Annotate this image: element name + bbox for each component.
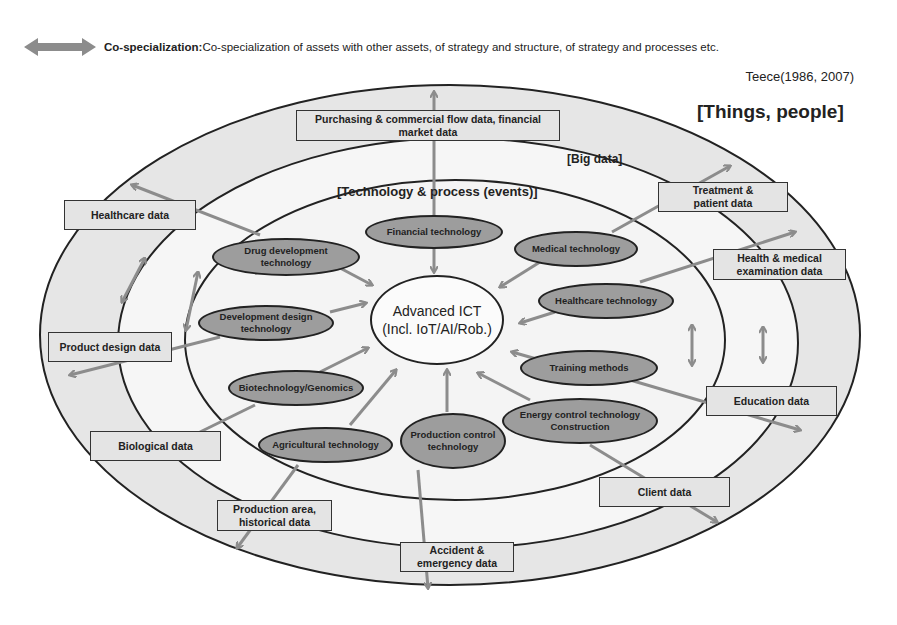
box-biological-data: Biological data [90,431,221,461]
double-arrow-icon [24,38,96,56]
citation: Teece(1986, 2007) [746,69,854,84]
box-client-data: Client data [599,477,730,507]
box-treatment-data: Treatment & patient data [658,182,788,212]
box-purchasing-data: Purchasing & commercial flow data, finan… [296,110,560,141]
oval-healthcare-technology: Healthcare technology [538,283,674,319]
oval-agricultural-technology: Agricultural technology [258,427,393,463]
inner-ring-label: [Technology & process (events)] [337,184,538,199]
oval-drug-development: Drug development technology [212,238,360,276]
center-line2: (Incl. IoT/AI/Rob.) [382,320,492,338]
oval-production-control: Production control technology [400,413,506,469]
legend: Co-specialization: Co-specialization of … [24,38,719,56]
box-education-data: Education data [706,386,837,416]
box-healthcare-data: Healthcare data [64,200,196,230]
oval-medical-technology: Medical technology [514,231,638,267]
box-production-area-data: Production area, historical data [217,500,332,531]
box-health-exam-data: Health & medical examination data [713,249,846,280]
center-line1: Advanced ICT [393,302,482,320]
oval-development-design: Development design technology [198,305,334,341]
oval-energy-control: Energy control technology Construction [502,398,658,444]
middle-ring-label: [Big data] [567,152,622,166]
outer-ring-label: [Things, people] [697,101,844,123]
legend-description: Co-specialization of assets with other a… [202,41,718,53]
legend-term: Co-specialization: [104,41,202,53]
oval-financial-technology: Financial technology [365,215,503,249]
advanced-ict-hub: Advanced ICT (Incl. IoT/AI/Rob.) [370,275,504,365]
oval-biotechnology-genomics: Biotechnology/Genomics [228,370,364,406]
box-product-design-data: Product design data [48,332,172,362]
oval-training-methods: Training methods [520,350,658,386]
box-accident-data: Accident & emergency data [400,542,514,572]
